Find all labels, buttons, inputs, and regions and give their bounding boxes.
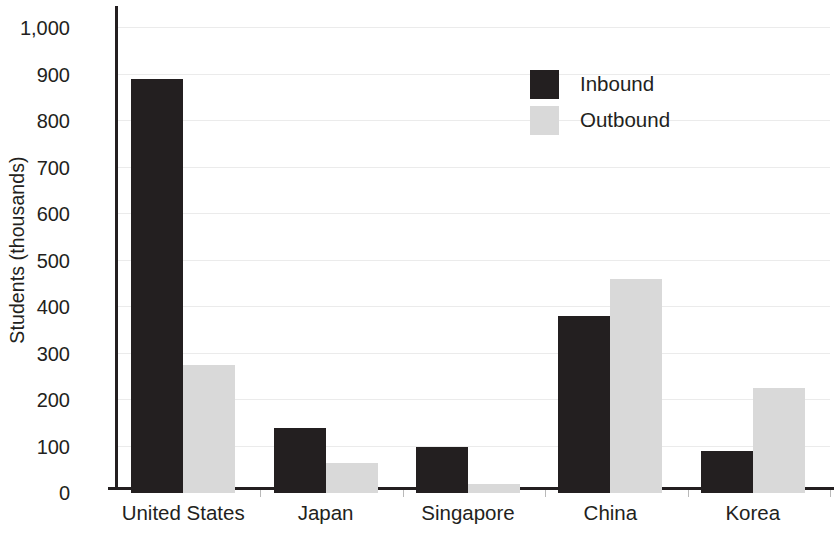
y-axis-tick-label: 600	[0, 204, 70, 224]
bar-outbound-japan	[326, 463, 378, 493]
y-axis-tick-label: 500	[0, 251, 70, 271]
y-axis-tick-label: 100	[0, 437, 70, 457]
bar-inbound-japan	[274, 428, 326, 493]
bar-inbound-korea	[701, 451, 753, 493]
gridline	[118, 27, 830, 28]
x-axis-minor-tick	[260, 490, 261, 497]
bar-outbound-united-states	[183, 365, 235, 493]
y-axis-tick-label: 0	[0, 483, 70, 503]
legend-swatch-inbound	[530, 70, 559, 99]
bar-inbound-united-states	[131, 79, 183, 493]
y-axis-tick-label: 700	[0, 158, 70, 178]
bar-outbound-singapore	[468, 484, 520, 493]
gridline	[118, 353, 830, 354]
gridline	[118, 213, 830, 214]
bar-inbound-singapore	[416, 447, 468, 494]
bar-outbound-china	[610, 279, 662, 493]
gridline	[118, 306, 830, 307]
legend-item-outbound: Outbound	[530, 102, 670, 138]
gridline	[118, 120, 830, 121]
y-axis-tick-label: 200	[0, 390, 70, 410]
y-axis-tick-label: 800	[0, 111, 70, 131]
y-axis-tick-label: 900	[0, 65, 70, 85]
chart-legend: InboundOutbound	[530, 66, 670, 138]
legend-item-inbound: Inbound	[530, 66, 670, 102]
legend-swatch-outbound	[530, 106, 559, 135]
legend-label-inbound: Inbound	[580, 72, 654, 96]
y-axis-zero-tick	[108, 487, 117, 490]
bar-inbound-china	[558, 316, 610, 493]
bar-chart: Students (thousands) 0100200300400500600…	[0, 0, 834, 536]
gridline	[118, 74, 830, 75]
x-axis-minor-tick	[403, 490, 404, 497]
plot-area: 01002003004005006007008009001,000	[118, 28, 830, 493]
y-axis-tick-label: 400	[0, 297, 70, 317]
x-axis-minor-tick	[545, 490, 546, 497]
y-axis-tick-label: 300	[0, 344, 70, 364]
gridline	[118, 260, 830, 261]
gridline	[118, 167, 830, 168]
x-axis-label-korea: Korea	[643, 500, 834, 526]
x-axis-minor-tick	[830, 490, 831, 497]
bar-outbound-korea	[753, 388, 805, 493]
y-axis-tick-label: 1,000	[0, 18, 70, 38]
x-axis-minor-tick	[688, 490, 689, 497]
legend-label-outbound: Outbound	[580, 108, 670, 132]
